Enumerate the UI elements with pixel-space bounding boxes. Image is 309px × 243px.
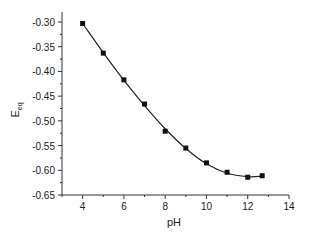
data-point-marker [163,129,168,134]
y-tick-label: -0.45 [32,91,55,102]
y-tick-label: -0.55 [32,141,55,152]
chart: -0.30-0.35-0.40-0.45-0.50-0.55-0.60-0.65… [0,0,309,243]
data-point-marker [121,77,126,82]
data-point-marker [204,160,209,165]
x-tick-label: 10 [201,201,213,212]
y-axis-label-subscript: eq [16,102,24,110]
plot-area [80,21,265,180]
x-axis-label: pH [167,216,181,228]
data-point-marker [80,21,85,26]
fit-line [83,23,263,176]
x-tick-label: 6 [121,201,127,212]
data-point-marker [245,175,250,180]
y-tick-label: -0.50 [32,116,55,127]
data-point-marker [260,173,265,178]
y-tick-label: -0.60 [32,165,55,176]
data-point-marker [101,51,106,56]
x-tick-label: 12 [242,201,254,212]
data-point-marker [142,102,147,107]
y-tick-label: -0.65 [32,190,55,201]
y-tick-label: -0.40 [32,66,55,77]
x-tick-label: 8 [162,201,168,212]
y-axis-label: Eeq [9,102,24,117]
data-point-marker [183,146,188,151]
y-tick-label: -0.35 [32,42,55,53]
data-point-marker [225,170,230,175]
chart-svg: -0.30-0.35-0.40-0.45-0.50-0.55-0.60-0.65… [0,0,309,243]
x-tick-label: 4 [80,201,86,212]
axes: -0.30-0.35-0.40-0.45-0.50-0.55-0.60-0.65… [32,12,295,212]
y-tick-label: -0.30 [32,17,55,28]
y-axis-label-main: E [9,110,21,117]
x-tick-label: 14 [283,201,295,212]
